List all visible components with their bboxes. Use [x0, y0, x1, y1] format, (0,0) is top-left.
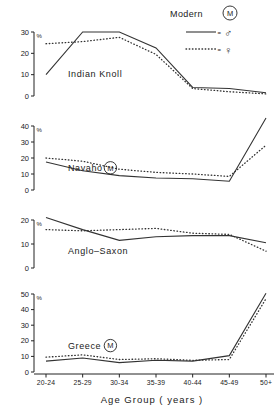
x-tick-label: 45-49	[220, 379, 238, 386]
y-tick-label: 20	[21, 49, 29, 58]
y-tick-label: 20	[21, 336, 29, 345]
y-tick-label: 20	[21, 216, 29, 225]
legend-male-equals: =	[218, 30, 222, 36]
y-tick-label: 30	[21, 321, 29, 330]
x-axis-area: 20-2425-2930-3435-3940-4445-4950+Age Gro…	[0, 372, 279, 412]
y-tick-label: 40	[21, 305, 29, 314]
chart-2: 01020%Anglo–Saxon	[0, 216, 279, 272]
y-tick-label: 30	[21, 28, 29, 37]
y-tick-label: 40	[21, 122, 29, 131]
x-tick-label: 50+	[260, 379, 272, 386]
y-tick-label: 50	[21, 290, 29, 299]
x-tick-label: 20-24	[37, 379, 55, 386]
y-axis-unit-label: %	[37, 127, 43, 133]
y-tick-label: 10	[21, 170, 29, 179]
legend-modern-badge-label: M	[227, 9, 233, 18]
y-axis-unit-label: %	[37, 33, 43, 39]
x-tick-label: 40-44	[183, 379, 201, 386]
y-tick-label: 20	[21, 154, 29, 163]
series-line-female	[46, 299, 266, 361]
legend-title: Modern	[170, 9, 203, 19]
y-tick-label: 0	[25, 186, 29, 195]
panel-title: Greece	[68, 341, 101, 351]
x-axis: 20-2425-2930-3435-3940-4445-4950+Age Gro…	[0, 372, 279, 412]
y-axis-unit-label: %	[37, 295, 43, 301]
legend-male-symbol: ♂	[224, 27, 232, 39]
modern-badge-label: M	[107, 164, 113, 173]
panel-navaho: 010203040%NavahoM	[0, 122, 279, 194]
panel-title: Navaho	[68, 163, 103, 173]
panel-anglo-saxon: 01020%Anglo–Saxon	[0, 216, 279, 272]
figure-panel-stack: 0102030%Indian Knoll010203040%NavahoM010…	[0, 0, 279, 413]
modern-badge-label: M	[107, 341, 113, 350]
legend-female-symbol: ♀	[224, 44, 232, 56]
x-tick-label: 25-29	[73, 379, 91, 386]
y-tick-label: 10	[21, 70, 29, 79]
y-tick-label: 30	[21, 138, 29, 147]
panel-title: Indian Knoll	[68, 69, 122, 79]
x-tick-label: 30-34	[110, 379, 128, 386]
legend-area: ModernM=♂=♀	[168, 4, 278, 62]
y-tick-label: 10	[21, 352, 29, 361]
y-tick-label: 0	[25, 264, 29, 273]
legend: ModernM=♂=♀	[168, 4, 278, 62]
y-tick-label: 10	[21, 240, 29, 249]
x-tick-label: 35-39	[147, 379, 165, 386]
y-tick-label: 0	[25, 92, 29, 101]
chart-3: 01020304050%GreeceM	[0, 290, 279, 376]
y-axis-unit-label: %	[37, 221, 43, 227]
panel-greece: 01020304050%GreeceM	[0, 290, 279, 376]
x-axis-title: Age Group ( years )	[101, 394, 203, 405]
legend-female-equals: =	[218, 47, 222, 53]
chart-1: 010203040%NavahoM	[0, 122, 279, 194]
panel-title: Anglo–Saxon	[68, 246, 128, 256]
